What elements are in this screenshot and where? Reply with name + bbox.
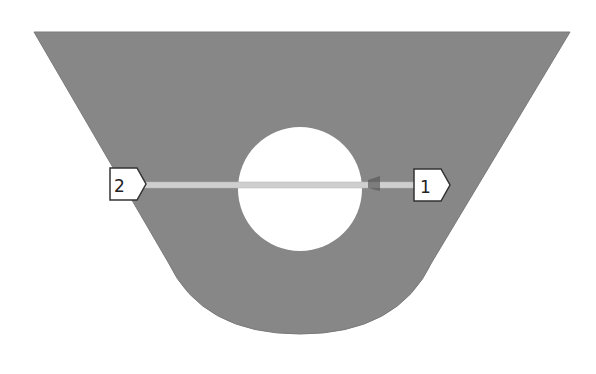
marker-2-label: 2 bbox=[114, 176, 125, 196]
marker-1-label: 1 bbox=[420, 177, 431, 197]
diagram-canvas: 2 1 bbox=[0, 0, 596, 374]
hole-circle[interactable] bbox=[238, 127, 362, 251]
